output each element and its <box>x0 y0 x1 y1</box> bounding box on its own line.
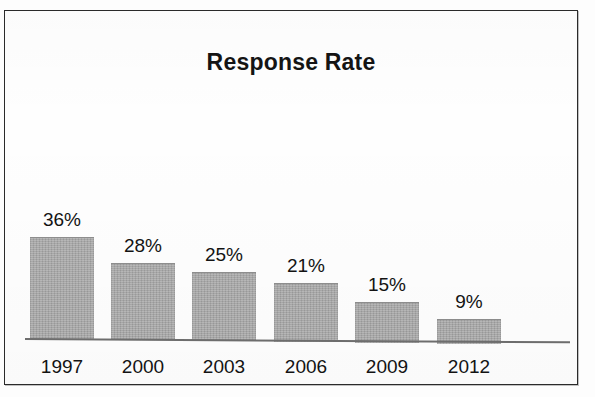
plot-area: 36% 1997 28% 2000 25% 2003 21% 2006 15% … <box>5 11 579 386</box>
bar-value-2009: 15% <box>355 274 419 296</box>
bar-value-2000: 28% <box>111 235 175 257</box>
chart-frame: Response Rate 36% 1997 28% 2000 25% 2003… <box>4 10 578 385</box>
bar-value-1997: 36% <box>30 209 94 231</box>
bar-1997 <box>30 237 94 339</box>
bar-category-2009: 2009 <box>355 356 419 378</box>
bar-category-2000: 2000 <box>111 356 175 378</box>
bar-value-2012: 9% <box>437 291 501 313</box>
bar-2009 <box>355 302 419 343</box>
bar-category-2006: 2006 <box>274 356 338 378</box>
bar-category-1997: 1997 <box>30 356 94 378</box>
bar-2003 <box>192 272 256 341</box>
bar-value-2003: 25% <box>192 244 256 266</box>
bar-value-2006: 21% <box>274 255 338 277</box>
bar-category-2003: 2003 <box>192 356 256 378</box>
bar-2006 <box>274 283 338 342</box>
bar-category-2012: 2012 <box>437 356 501 378</box>
bar-2000 <box>111 263 175 340</box>
